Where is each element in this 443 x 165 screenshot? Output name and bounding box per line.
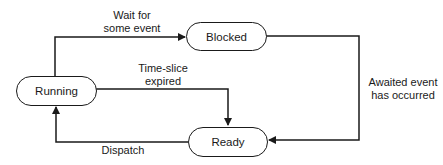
process-state-diagram: Running Blocked Ready Wait for some even… — [0, 0, 443, 165]
arrow-blocked-to-ready — [266, 36, 359, 140]
arrow-ready-to-running — [56, 107, 188, 142]
state-running-label: Running — [35, 85, 78, 97]
state-ready: Ready — [188, 127, 268, 157]
state-ready-label: Ready — [211, 136, 244, 148]
label-time-slice-expired: Time-slice expired — [113, 62, 213, 87]
label-dispatch: Dispatch — [88, 144, 158, 157]
state-blocked-label: Blocked — [206, 31, 247, 43]
label-wait-for-event: Wait for some event — [82, 9, 182, 34]
arrow-running-to-ready — [96, 89, 228, 125]
label-awaited-event: Awaited event has occurred — [358, 76, 443, 101]
state-blocked: Blocked — [186, 22, 267, 51]
state-running: Running — [16, 76, 97, 106]
